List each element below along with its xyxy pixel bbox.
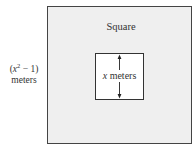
- outer-square-side-label: (x2 − 1) meters: [2, 64, 46, 86]
- inner-side-unit: meters: [107, 70, 136, 81]
- outer-side-unit: meters: [2, 75, 46, 86]
- inner-square-side-label: x meters: [95, 70, 144, 81]
- expr-rest: − 1): [20, 64, 38, 74]
- outer-side-expression: (x2 − 1): [2, 64, 46, 75]
- outer-square-label: Square: [96, 21, 146, 32]
